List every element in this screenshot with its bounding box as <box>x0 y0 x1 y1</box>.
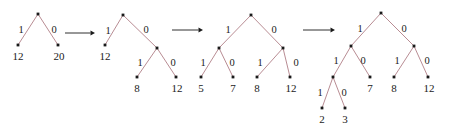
edge-bit-label: 1 <box>137 58 142 69</box>
tree-internal-node <box>250 14 253 17</box>
leaf-weight-label: 7 <box>367 83 373 94</box>
tree-leaf-node <box>232 76 235 79</box>
tree-internal-node <box>380 12 383 15</box>
leaf-weight-label: 3 <box>342 114 348 125</box>
tree-edge <box>251 15 283 48</box>
edge-bit-label: 1 <box>357 24 362 35</box>
leaf-weight-label: 12 <box>286 83 297 94</box>
tree-internal-node <box>332 76 335 79</box>
tree-leaf-node <box>289 76 292 79</box>
edge-bit-label: 0 <box>143 25 148 36</box>
tree-leaf-node <box>427 76 430 79</box>
leaf-weight-label: 8 <box>391 83 397 94</box>
leaf-weight-label: 5 <box>198 83 204 94</box>
edge-bit-label: 0 <box>401 24 406 35</box>
edge-bit-label: 1 <box>18 25 23 36</box>
tree-3 <box>200 14 292 79</box>
edge-bit-label: 1 <box>394 56 399 67</box>
edge-bit-label: 0 <box>424 56 429 67</box>
leaf-weight-label: 12 <box>13 51 24 62</box>
tree-internal-node <box>37 13 40 16</box>
arrow-head-icon <box>331 27 336 32</box>
edge-bit-label: 1 <box>225 25 230 36</box>
tree-edge <box>283 48 290 77</box>
huffman-tree-sequence-figure: 1012201010128121010105781210101010781223 <box>0 0 453 128</box>
leaf-weight-label: 2 <box>319 114 325 125</box>
leaf-weight-label: 8 <box>134 83 140 94</box>
leaf-weight-label: 12 <box>424 83 435 94</box>
tree-leaf-node <box>344 107 347 110</box>
tree-leaf-node <box>321 107 324 110</box>
edge-bit-label: 0 <box>271 25 276 36</box>
tree-edge <box>322 77 333 108</box>
tree-internal-node <box>218 47 221 50</box>
tree-leaf-node <box>57 44 60 47</box>
leaf-weight-label: 12 <box>100 51 111 62</box>
arrow-3 <box>303 27 335 32</box>
edge-bit-label: 0 <box>51 25 56 36</box>
leaf-weight-label: 12 <box>172 83 183 94</box>
tree-internal-node <box>122 14 125 17</box>
leaf-weight-label: 7 <box>230 83 236 94</box>
leaf-weight-label: 20 <box>54 51 65 62</box>
edge-bit-label: 1 <box>333 56 338 67</box>
arrow-head-icon <box>91 30 96 35</box>
edge-bit-label: 0 <box>360 56 365 67</box>
tree-leaf-node <box>136 76 139 79</box>
tree-leaf-node <box>369 76 372 79</box>
leaf-weight-label: 8 <box>254 83 260 94</box>
edge-bit-label: 0 <box>170 58 175 69</box>
tree-leaf-node <box>256 76 259 79</box>
tree-leaf-node <box>393 76 396 79</box>
arrow-1 <box>65 30 95 35</box>
edge-bit-label: 0 <box>293 58 298 69</box>
tree-edge <box>351 13 381 46</box>
arrow-head-icon <box>199 27 204 32</box>
tree-leaf-node <box>200 76 203 79</box>
tree-leaf-node <box>175 76 178 79</box>
edge-bit-label: 0 <box>341 88 346 99</box>
tree-diagram-svg <box>0 0 453 128</box>
tree-internal-node <box>350 45 353 48</box>
edge-bit-label: 1 <box>257 58 262 69</box>
tree-2 <box>104 14 178 79</box>
edge-bit-label: 1 <box>317 88 322 99</box>
tree-leaf-node <box>17 44 20 47</box>
tree-edge <box>381 13 414 46</box>
tree-internal-node <box>413 45 416 48</box>
tree-leaf-node <box>104 44 107 47</box>
edge-bit-label: 0 <box>229 58 234 69</box>
tree-internal-node <box>156 47 159 50</box>
edge-bit-label: 1 <box>105 26 110 37</box>
edge-bit-label: 1 <box>200 58 205 69</box>
tree-edge <box>219 15 251 48</box>
tree-internal-node <box>282 47 285 50</box>
tree-edge <box>123 15 157 48</box>
arrow-2 <box>172 27 203 32</box>
